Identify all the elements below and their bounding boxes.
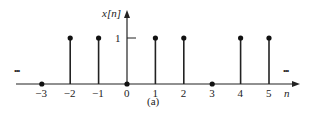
stem-marker xyxy=(153,35,158,40)
x-axis-label: n xyxy=(284,88,290,99)
y-axis-arrow-icon xyxy=(124,10,130,18)
stem-marker xyxy=(96,35,101,40)
x-tick-label: −1 xyxy=(92,88,104,99)
stem-plot: x[n] 1 n ••• ••• (a) −3−2−1012345 xyxy=(0,0,310,121)
ellipsis-left: ••• xyxy=(14,68,19,76)
x-tick-label: 0 xyxy=(124,88,130,99)
x-tick-label: −2 xyxy=(64,88,76,99)
x-tick-label: 1 xyxy=(152,88,158,99)
stem-marker xyxy=(266,35,271,40)
stem-marker xyxy=(68,35,73,40)
ellipsis-right: ••• xyxy=(283,68,288,76)
stems xyxy=(39,35,271,86)
x-tick-label: 4 xyxy=(238,88,244,99)
y-axis-label: x[n] xyxy=(102,8,121,19)
stem-marker xyxy=(39,81,44,86)
x-tick-label: 2 xyxy=(181,88,187,99)
stem-marker xyxy=(124,81,129,86)
stem-marker xyxy=(238,35,243,40)
x-tick-label: 3 xyxy=(209,88,215,99)
stem-marker xyxy=(181,35,186,40)
x-axis-arrow-icon xyxy=(292,81,300,87)
x-tick-label: −3 xyxy=(35,88,47,99)
x-tick-label: 5 xyxy=(266,88,272,99)
y-tick-label-1: 1 xyxy=(115,33,121,44)
stem-marker xyxy=(210,81,215,86)
